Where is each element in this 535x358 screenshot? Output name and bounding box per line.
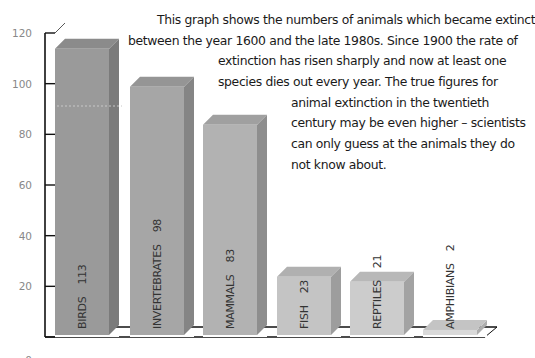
annotation-line-8: not know about.	[291, 155, 386, 176]
y-tick-label: 40	[19, 230, 32, 242]
y-tick-label: 120	[12, 27, 32, 39]
annotation-line-2: between the year 1600 and the late 1980s…	[128, 31, 518, 52]
bar-fish: FISH23	[277, 267, 341, 337]
bar-birds: BIRDS113	[55, 39, 119, 337]
annotation-line-1: This graph shows the numbers of animals …	[157, 10, 535, 31]
y-tick-label: 80	[19, 128, 32, 140]
bar-label: REPTILES21	[371, 255, 384, 329]
bar-amphibians: AMPHIBIANS2	[423, 245, 487, 337]
annotation-line-6: century may be even higher – scientists	[291, 113, 526, 134]
annotation-line-7: can only guess at the animals they do	[291, 134, 515, 155]
bar-label: AMPHIBIANS2	[444, 245, 457, 329]
y-tick-label: 0	[25, 354, 32, 358]
annotation-line-5: animal extinction in the twentieth	[291, 93, 489, 114]
bar-mammals: MAMMALS83	[203, 115, 267, 337]
bar-invertebrates: INVERTEBRATES98	[130, 77, 194, 337]
y-tick-label: 100	[12, 78, 32, 90]
y-tick-label: 20	[19, 280, 32, 292]
bar-label: MAMMALS83	[224, 249, 237, 329]
bar-reptiles: REPTILES21	[350, 255, 414, 337]
annotation-line-3: extinction has risen sharply and now at …	[218, 51, 506, 72]
y-tick-label: 60	[19, 179, 32, 191]
annotation-line-4: species dies out every year. The true fi…	[218, 72, 498, 93]
